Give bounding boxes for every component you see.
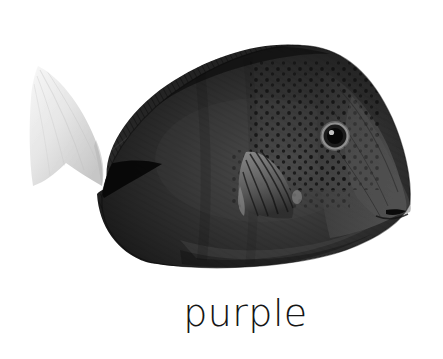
eye [320,121,350,151]
fish-illustration [0,0,443,285]
caption-area: purple [0,285,443,359]
image-area [0,0,443,285]
caption-text: purple [0,285,443,342]
flashcard: purple [0,0,443,359]
fish-svg [0,0,443,285]
